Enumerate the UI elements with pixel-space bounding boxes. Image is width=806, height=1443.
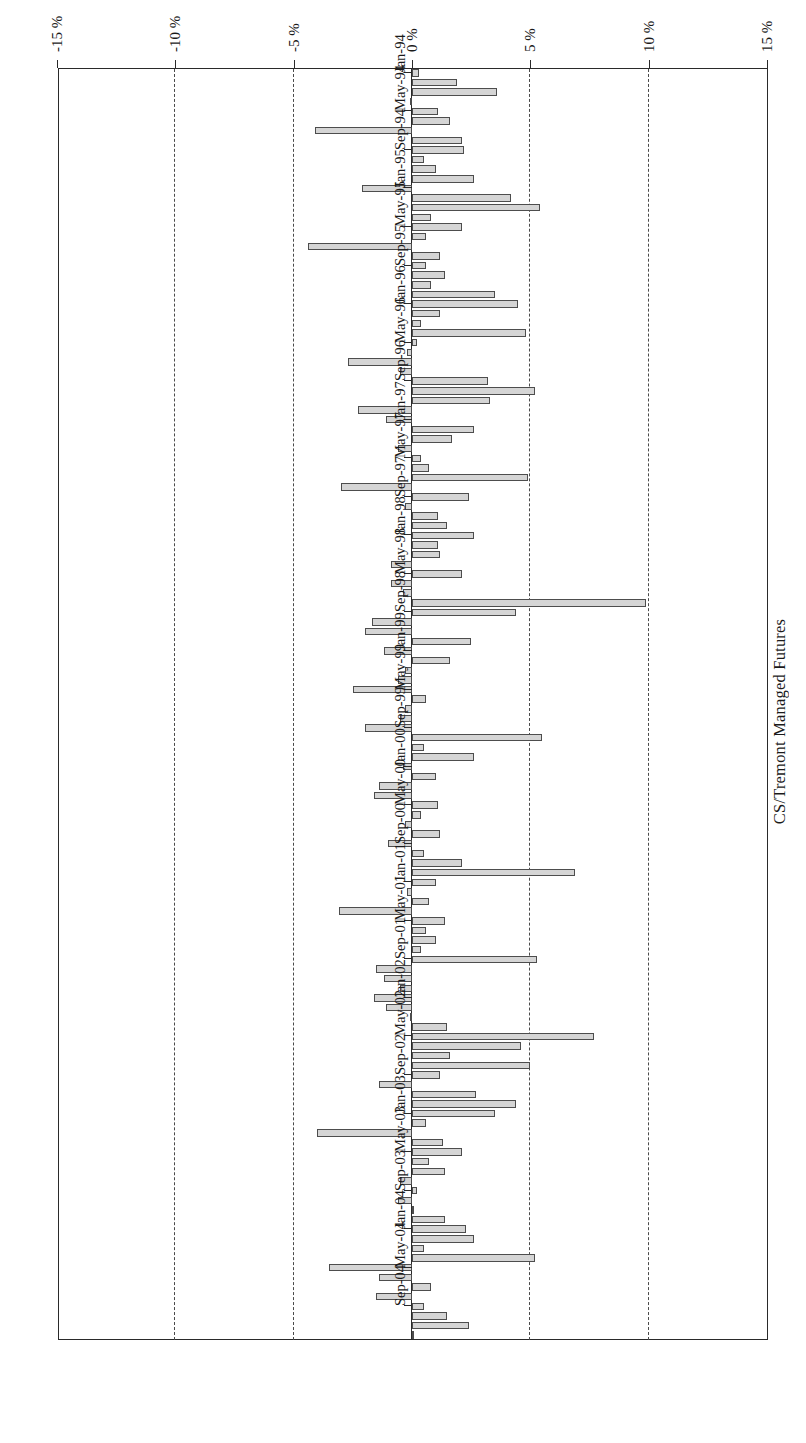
category-label: May-95	[392, 181, 409, 227]
bar	[412, 1110, 495, 1118]
bar	[412, 522, 448, 530]
category-label: May-98	[392, 528, 409, 574]
bar	[412, 271, 445, 279]
bar	[412, 1148, 462, 1156]
bar	[410, 1013, 412, 1021]
bar	[412, 320, 421, 328]
bar	[412, 175, 474, 183]
bar	[412, 426, 474, 434]
bar	[412, 1187, 417, 1195]
bar	[412, 657, 450, 665]
bar	[412, 1023, 448, 1031]
category-label: Sep-03	[392, 1150, 409, 1191]
axis-tick	[175, 60, 176, 68]
bar	[412, 927, 426, 935]
bar	[412, 214, 431, 222]
axis-tick-label: 0 %	[404, 28, 421, 52]
bar	[412, 773, 436, 781]
bar	[412, 146, 464, 154]
bar	[412, 1119, 426, 1127]
category-label: May-99	[392, 644, 409, 690]
bar	[412, 281, 431, 289]
bar	[412, 512, 438, 520]
axis-tick	[649, 60, 650, 68]
category-label: Sep-94	[392, 109, 409, 150]
bar	[412, 1245, 424, 1253]
bar	[412, 946, 421, 954]
category-label: Sep-96	[392, 340, 409, 381]
bar	[412, 869, 575, 877]
bar	[412, 233, 426, 241]
bar	[412, 108, 438, 116]
category-label: Sep-01	[392, 918, 409, 959]
axis-tick-label: 15 %	[759, 21, 776, 52]
axis-tick	[412, 60, 413, 68]
bar	[412, 1091, 476, 1099]
axis-tick	[530, 60, 531, 68]
category-label: Sep-02	[392, 1034, 409, 1075]
bar	[412, 1225, 466, 1233]
bar	[412, 1100, 516, 1108]
bar	[412, 329, 526, 337]
gridline	[529, 69, 530, 1340]
bar	[412, 734, 542, 742]
bar	[412, 117, 450, 125]
bar	[412, 1158, 429, 1166]
bar	[412, 310, 440, 318]
bar	[412, 1042, 521, 1050]
bar	[412, 532, 474, 540]
bar	[412, 223, 462, 231]
bar	[412, 879, 436, 887]
bar	[412, 137, 462, 145]
bar	[412, 859, 462, 867]
bar	[412, 397, 490, 405]
axis-tick	[294, 60, 295, 68]
bar	[412, 300, 519, 308]
category-label: Sep-00	[392, 803, 409, 844]
category-label: May-97	[392, 412, 409, 458]
bar	[412, 464, 429, 472]
bar	[412, 387, 535, 395]
bar	[412, 1216, 445, 1224]
bar	[412, 493, 469, 501]
bar	[412, 830, 440, 838]
bar	[412, 1062, 530, 1070]
bar	[412, 541, 438, 549]
bar	[412, 1283, 431, 1291]
bar	[412, 291, 495, 299]
bar	[412, 917, 445, 925]
gridline	[648, 69, 649, 1340]
bar	[412, 1052, 450, 1060]
bar	[412, 1235, 474, 1243]
bar	[412, 69, 419, 77]
bar	[412, 194, 511, 202]
plot-area: Jan-94May-94Sep-94Jan-95May-95Sep-95Jan-…	[58, 68, 768, 1340]
bar	[412, 936, 436, 944]
gridline	[293, 69, 294, 1340]
bar	[410, 98, 412, 106]
bar	[412, 1206, 414, 1214]
category-label: May-04	[392, 1222, 409, 1268]
category-label: Sep-95	[392, 224, 409, 265]
bar	[412, 609, 516, 617]
bar	[412, 262, 426, 270]
category-label: May-01	[392, 875, 409, 921]
axis-tick	[57, 60, 58, 68]
rotated-chart-canvas: CS/Tremont Managed Futures Jan-94May-94S…	[0, 0, 806, 1443]
bar	[412, 811, 421, 819]
category-label: Sep-99	[392, 687, 409, 728]
bar	[412, 377, 488, 385]
bar	[412, 165, 436, 173]
axis-tick-label: -10 %	[167, 16, 184, 52]
page-title: CS/Tremont Managed Futures	[770, 0, 790, 1443]
bar	[412, 156, 424, 164]
bar	[412, 1071, 440, 1079]
axis-tick	[767, 60, 768, 68]
axis-tick-label: -5 %	[285, 23, 302, 52]
bar	[412, 744, 424, 752]
axis-tick-label: 10 %	[640, 21, 657, 52]
bar	[412, 753, 474, 761]
bar	[412, 1254, 535, 1262]
bar	[412, 1139, 443, 1147]
category-label: Sep-98	[392, 571, 409, 612]
